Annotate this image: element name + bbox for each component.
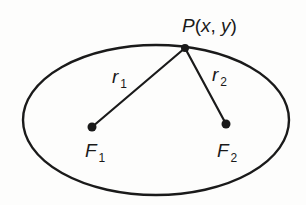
ellipse-diagram: P(x, y) r1 r2 F1 F2 [0, 0, 306, 205]
point-p-label: P(x, y) [182, 16, 237, 35]
focus-2-dot [222, 120, 231, 129]
point-p-name: P [182, 15, 195, 36]
ellipse-curve [23, 45, 289, 195]
point-p-dot [181, 44, 189, 52]
point-p-y: y [221, 15, 231, 36]
segment-r1-symbol: r [112, 66, 118, 87]
focus-1-symbol: F [85, 140, 97, 161]
segment-r1-subscript: 1 [120, 77, 127, 91]
point-p-x: x [201, 15, 211, 36]
point-p-close-paren: ) [231, 15, 237, 36]
focus-1-label: F1 [85, 141, 105, 160]
focus-1-subscript: 1 [99, 151, 106, 165]
focus-1-dot [88, 123, 97, 132]
segment-r1-label: r1 [112, 67, 127, 86]
segment-r2-subscript: 2 [220, 75, 227, 89]
segment-r2-symbol: r [212, 64, 218, 85]
segment-r2-label: r2 [212, 65, 227, 84]
ellipse-figure [0, 0, 306, 205]
segment-r1 [92, 48, 185, 127]
point-p-separator: , [211, 15, 222, 36]
focus-2-symbol: F [217, 140, 229, 161]
focus-2-subscript: 2 [231, 151, 238, 165]
focus-2-label: F2 [217, 141, 237, 160]
